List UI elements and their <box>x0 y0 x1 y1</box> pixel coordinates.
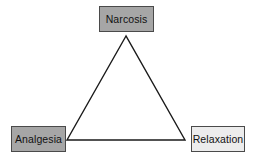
triangle-shape <box>67 36 185 140</box>
node-narcosis-label: Narcosis <box>106 13 148 25</box>
node-narcosis: Narcosis <box>99 6 154 32</box>
node-relaxation-label: Relaxation <box>193 133 244 145</box>
node-relaxation: Relaxation <box>191 126 245 152</box>
node-analgesia: Analgesia <box>11 126 66 152</box>
node-analgesia-label: Analgesia <box>15 133 62 145</box>
anesthesia-triad-diagram: Narcosis Analgesia Relaxation <box>0 0 257 162</box>
